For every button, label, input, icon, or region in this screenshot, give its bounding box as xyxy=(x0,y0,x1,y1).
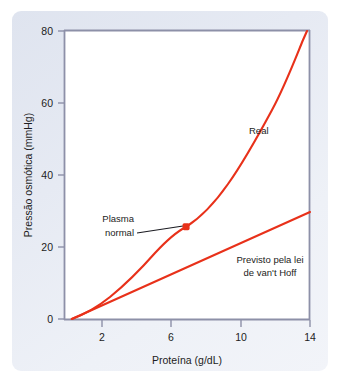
series-label-vant-hoff-line2: de van't Hoff xyxy=(244,267,297,278)
y-tick-label-20: 20 xyxy=(41,241,53,253)
figure-root: 80 60 40 20 0 2 6 10 14 Proteína (g/dL) … xyxy=(0,0,339,383)
plasma-normal-label-line2: normal xyxy=(105,227,134,238)
y-tick-label-60: 60 xyxy=(41,97,53,109)
x-axis-title: Proteína (g/dL) xyxy=(152,354,222,366)
osmotic-pressure-chart: 80 60 40 20 0 2 6 10 14 Proteína (g/dL) … xyxy=(0,0,339,383)
x-axis-ticks xyxy=(102,320,310,327)
series-label-vant-hoff-line1: Previsto pela lei xyxy=(236,254,303,265)
series-label-real: Real xyxy=(249,125,269,136)
y-tick-label-40: 40 xyxy=(41,169,53,181)
plasma-normal-label-line1: Plasma xyxy=(102,213,134,224)
x-tick-label-2: 2 xyxy=(99,331,105,343)
y-axis-ticks xyxy=(58,31,64,319)
x-tick-label-6: 6 xyxy=(168,331,174,343)
y-axis-title: Pressão osmótica (mmHg) xyxy=(22,113,34,237)
plasma-normal-marker xyxy=(183,223,190,230)
y-tick-label-0: 0 xyxy=(47,313,53,325)
x-tick-label-10: 10 xyxy=(235,331,247,343)
x-tick-label-14: 14 xyxy=(304,331,316,343)
y-tick-label-80: 80 xyxy=(41,25,53,37)
